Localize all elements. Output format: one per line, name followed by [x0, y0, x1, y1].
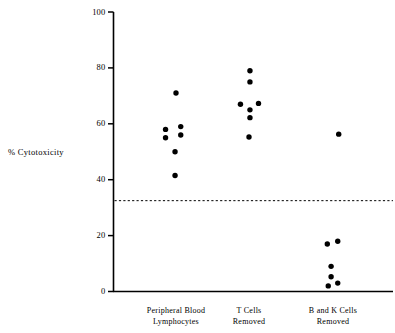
data-point: [247, 115, 252, 120]
plot-area: [0, 0, 395, 333]
data-point: [246, 134, 251, 139]
y-tick-label: 100: [80, 7, 106, 17]
y-tick-label: 60: [80, 118, 106, 128]
data-point: [336, 131, 341, 136]
y-tick-label: 20: [80, 230, 106, 240]
data-point: [172, 149, 177, 154]
data-point: [247, 107, 252, 112]
data-point: [238, 102, 243, 107]
data-point: [325, 241, 330, 246]
x-category-label: B and K CellsRemoved: [273, 306, 393, 327]
data-point: [178, 132, 183, 137]
data-point: [247, 79, 252, 84]
data-point: [328, 274, 333, 279]
data-point: [326, 283, 331, 288]
data-point: [172, 173, 177, 178]
data-point: [256, 101, 261, 106]
scatter-chart: % Cytotoxicity 020406080100 Peripheral B…: [0, 0, 395, 333]
data-points-group: [163, 68, 342, 289]
data-point: [178, 124, 183, 129]
y-tick-label: 80: [80, 62, 106, 72]
data-point: [335, 238, 340, 243]
x-category-label-line2: Removed: [273, 317, 393, 328]
data-point: [247, 68, 252, 73]
data-point: [328, 264, 333, 269]
y-tick-label: 0: [80, 286, 106, 296]
x-category-label-line1: B and K Cells: [273, 306, 393, 317]
data-point: [163, 135, 168, 140]
y-tick-label: 40: [80, 174, 106, 184]
data-point: [173, 90, 178, 95]
data-point: [335, 280, 340, 285]
y-axis-ticks: [108, 12, 114, 292]
data-point: [163, 127, 168, 132]
